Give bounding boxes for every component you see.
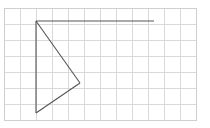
grid-background (0, 0, 210, 128)
drawing-canvas (0, 0, 210, 128)
